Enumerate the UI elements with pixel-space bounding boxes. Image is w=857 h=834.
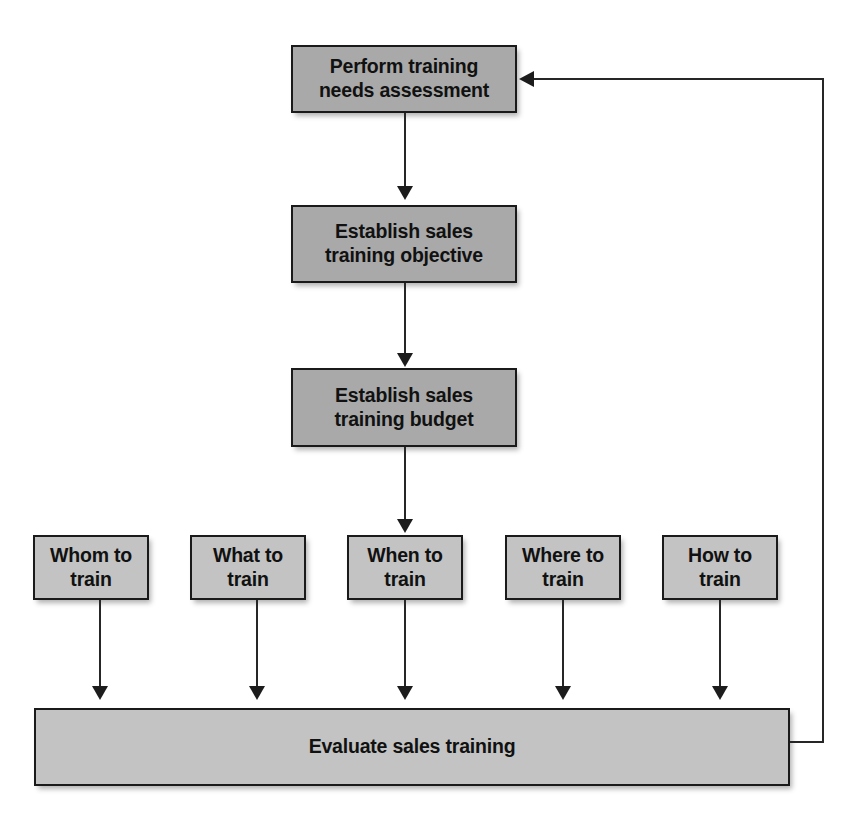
connector-how-to-evaluate: [719, 600, 721, 688]
node-whom-to-train-label: Whom to train: [44, 544, 138, 592]
node-how-to-train[interactable]: How to train: [662, 535, 778, 600]
connector-whom-to-evaluate: [99, 600, 101, 688]
connector-when-to-evaluate: [404, 600, 406, 688]
arrowhead-whom-to-evaluate: [92, 686, 108, 700]
feedback-loop-top-segment: [534, 78, 824, 80]
connector-needs-to-objective: [404, 113, 406, 188]
node-evaluate-sales-training[interactable]: Evaluate sales training: [34, 708, 790, 786]
node-training-objective[interactable]: Establish sales training objective: [291, 205, 517, 283]
node-where-to-train[interactable]: Where to train: [505, 535, 621, 600]
node-where-to-train-label: Where to train: [516, 544, 610, 592]
node-how-to-train-label: How to train: [682, 544, 758, 592]
node-whom-to-train[interactable]: Whom to train: [33, 535, 149, 600]
node-evaluate-sales-training-label: Evaluate sales training: [303, 735, 522, 759]
arrowhead-when-to-evaluate: [397, 686, 413, 700]
arrowhead-where-to-evaluate: [555, 686, 571, 700]
node-training-budget[interactable]: Establish sales training budget: [291, 368, 517, 447]
feedback-loop-bottom-segment: [790, 741, 824, 743]
arrowhead-how-to-evaluate: [712, 686, 728, 700]
node-when-to-train-label: When to train: [361, 544, 449, 592]
arrowhead-needs-to-objective: [397, 186, 413, 200]
node-training-objective-label: Establish sales training objective: [319, 220, 489, 268]
arrowhead-what-to-evaluate: [249, 686, 265, 700]
connector-what-to-evaluate: [256, 600, 258, 688]
node-what-to-train[interactable]: What to train: [190, 535, 306, 600]
node-when-to-train[interactable]: When to train: [347, 535, 463, 600]
arrowhead-feedback-loop: [519, 71, 534, 87]
connector-where-to-evaluate: [562, 600, 564, 688]
scan-bleed-artifact: [0, 0, 857, 26]
arrowhead-objective-to-budget: [397, 353, 413, 367]
node-training-budget-label: Establish sales training budget: [329, 384, 480, 432]
node-what-to-train-label: What to train: [207, 544, 289, 592]
node-needs-assessment[interactable]: Perform training needs assessment: [291, 45, 517, 113]
connector-objective-to-budget: [404, 283, 406, 355]
feedback-loop-right-segment: [822, 78, 824, 743]
arrowhead-budget-to-when: [397, 519, 413, 533]
node-needs-assessment-label: Perform training needs assessment: [313, 55, 495, 103]
flowchart-canvas: Perform training needs assessment Establ…: [0, 0, 857, 834]
connector-budget-to-when: [404, 447, 406, 521]
